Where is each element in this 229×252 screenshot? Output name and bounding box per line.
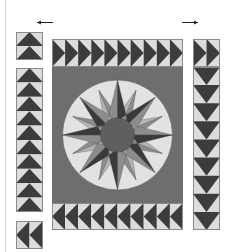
quilt-diagram (0, 0, 229, 252)
flying-goose-unit (16, 154, 43, 168)
flying-goose-unit (131, 203, 144, 230)
flying-goose-unit (104, 203, 117, 230)
flying-goose-unit (193, 103, 220, 121)
left-column-strip (16, 68, 43, 212)
flying-goose-unit (52, 203, 65, 230)
flying-goose-unit (170, 203, 183, 230)
flying-goose-unit (118, 203, 131, 230)
flying-goose-unit (91, 39, 104, 67)
left-top-block (16, 32, 43, 60)
compass-hub (101, 118, 135, 152)
flying-goose-unit (16, 111, 43, 125)
flying-goose-unit (16, 97, 43, 111)
flying-goose-unit (78, 39, 91, 67)
flying-goose-unit (16, 46, 43, 60)
flying-goose-unit (16, 126, 43, 140)
flying-goose-unit (207, 39, 221, 67)
flying-goose-unit (65, 203, 78, 230)
center-panel (52, 67, 183, 203)
flying-goose-unit (16, 68, 43, 82)
left-arrow-icon (37, 21, 53, 25)
bottom-border-strip (52, 203, 183, 230)
right-column-top (193, 39, 220, 67)
flying-goose-unit (193, 212, 220, 230)
flying-goose-unit (144, 39, 157, 67)
flying-goose-unit (65, 39, 78, 67)
flying-goose-unit (16, 140, 43, 154)
flying-goose-unit (30, 221, 44, 249)
flying-goose-unit (16, 183, 43, 197)
flying-goose-unit (170, 39, 183, 67)
flying-goose-unit (131, 39, 144, 67)
flying-goose-unit (193, 158, 220, 176)
flying-goose-unit (91, 203, 104, 230)
flying-goose-unit (193, 39, 207, 67)
flying-goose-unit (52, 39, 65, 67)
flying-goose-unit (16, 221, 30, 249)
flying-goose-unit (78, 203, 91, 230)
flying-goose-unit (16, 32, 43, 46)
flying-goose-unit (193, 121, 220, 139)
flying-goose-unit (16, 82, 43, 96)
flying-goose-unit (104, 39, 117, 67)
flying-goose-unit (118, 39, 131, 67)
flying-goose-unit (193, 139, 220, 157)
flying-goose-unit (193, 176, 220, 194)
right-arrow-icon (182, 21, 198, 25)
flying-goose-unit (157, 39, 170, 67)
flying-goose-unit (16, 198, 43, 212)
flying-goose-unit (16, 169, 43, 183)
flying-goose-unit (193, 67, 220, 85)
flying-goose-unit (193, 194, 220, 212)
right-column-strip (193, 67, 220, 230)
flying-goose-unit (144, 203, 157, 230)
left-bottom-block (16, 221, 43, 249)
flying-goose-unit (193, 85, 220, 103)
top-border-strip (52, 39, 183, 67)
flying-goose-unit (157, 203, 170, 230)
